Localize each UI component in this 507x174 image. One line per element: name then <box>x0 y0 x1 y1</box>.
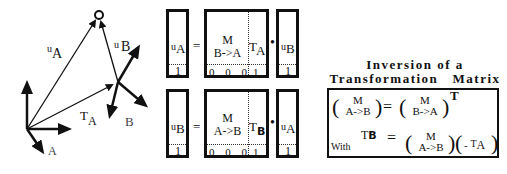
label-frame-a: A <box>48 145 57 157</box>
inversion-box: ( M A->B ) = ( M B->A ) T With TB = ( M … <box>327 88 499 158</box>
eq1-dot: • <box>270 36 275 50</box>
eq2-rhs-vector: uA 1 <box>276 89 299 158</box>
inversion-title-line2: Transformation Matrix <box>325 72 505 85</box>
label-frame-b: B <box>125 115 134 128</box>
eq1-equals: = <box>193 39 200 52</box>
eq1-matrix: M B->A TA 0 0 0 1 <box>204 9 269 78</box>
label-t-a: TA <box>80 109 97 122</box>
eq2-lhs-vector: uB 1 <box>166 89 189 158</box>
eq2-matrix: M A->B TB 0 0 0 1 <box>204 89 269 158</box>
label-u-a: uA <box>47 44 62 58</box>
eq1-rhs-vector: uB 1 <box>276 9 299 78</box>
eq2-equals: = <box>193 120 200 133</box>
vector-diagram <box>0 0 165 174</box>
eq1-lhs-vector: uA 1 <box>166 9 189 78</box>
eq2-dot: • <box>270 116 275 130</box>
circle-point-icon <box>95 11 103 19</box>
label-u-b: uB <box>114 40 130 54</box>
inversion-title-line1: Inversion of a <box>325 58 505 71</box>
